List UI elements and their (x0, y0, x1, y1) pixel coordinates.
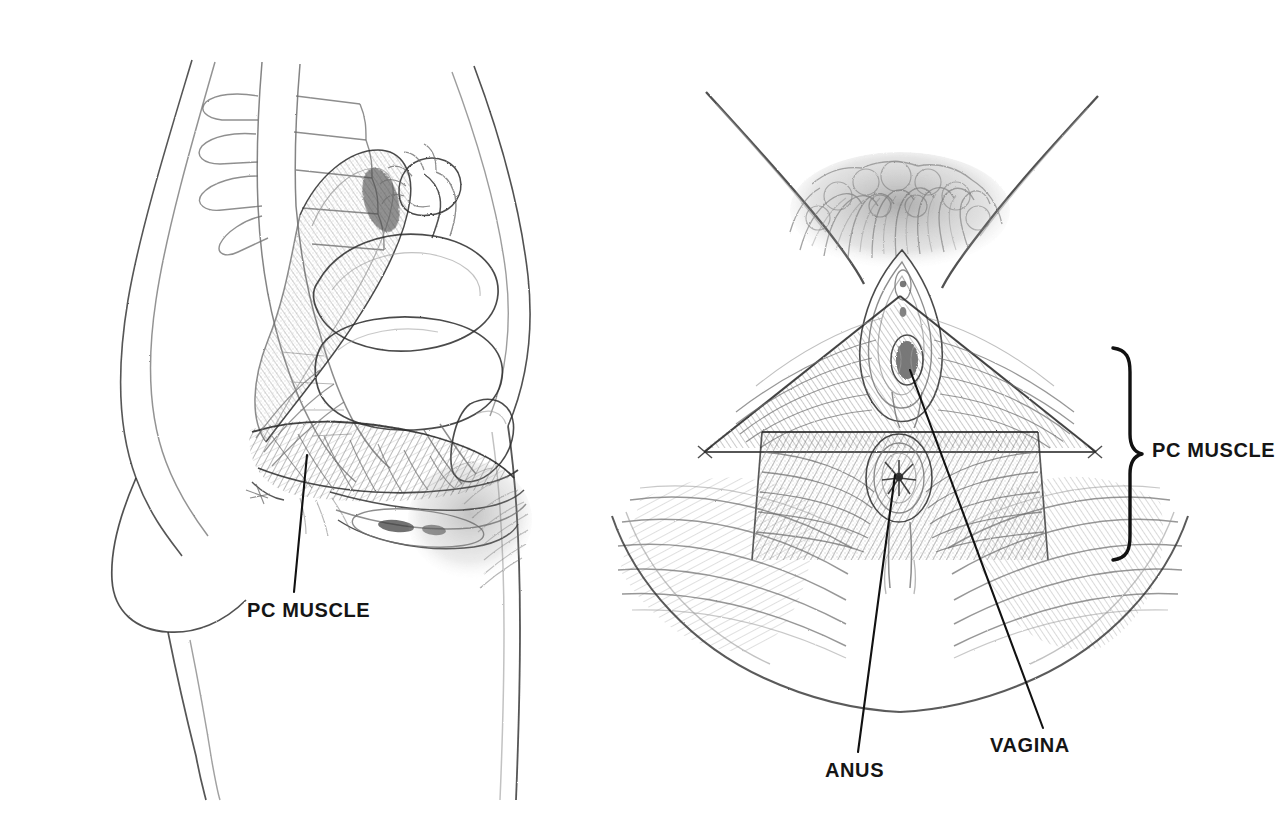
clitoris-marker (900, 281, 906, 287)
label-pc-muscle-left: PC MUSCLE (247, 600, 370, 620)
label-anus: ANUS (825, 760, 884, 780)
label-vagina: VAGINA (990, 735, 1070, 755)
pubic-hair-mons (790, 152, 1010, 268)
label-pc-muscle-right: PC MUSCLE (1152, 440, 1275, 460)
